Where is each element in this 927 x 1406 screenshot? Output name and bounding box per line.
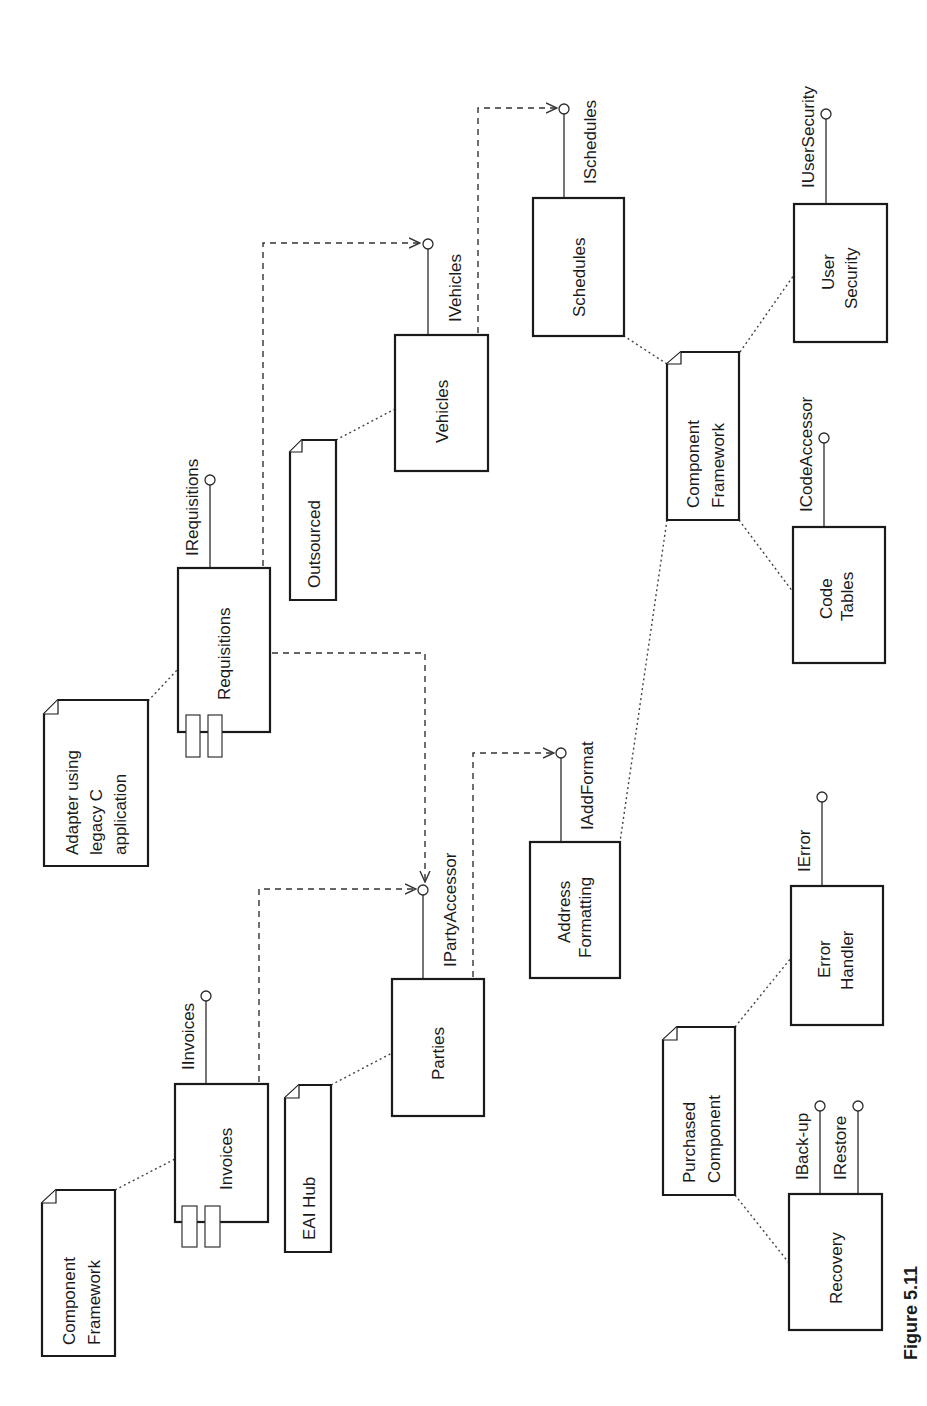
interface-irequisitions: IRequisitions: [183, 459, 215, 568]
figure-caption: Figure 5.11: [901, 1266, 921, 1360]
note-label: Framework: [85, 1259, 104, 1345]
component-code-tables[interactable]: Code Tables: [793, 527, 885, 663]
interface-iinvoices: IInvoices: [179, 991, 211, 1084]
anchor-purchased-recovery: [735, 1195, 789, 1263]
note-label: Component: [60, 1257, 79, 1345]
note-label: application: [111, 774, 130, 855]
interface-iaddformat: IAddFormat: [556, 741, 597, 842]
component-error-handler[interactable]: Error Handler: [791, 886, 883, 1025]
note-outsourced[interactable]: Outsourced: [290, 440, 336, 600]
component-label: Requisitions: [215, 607, 234, 700]
component-tab-icon: [182, 1206, 197, 1247]
anchor-cfright-codetables: [739, 520, 793, 592]
component-label: Formatting: [576, 877, 595, 958]
interface-icodeaccessor: ICodeAccessor: [797, 396, 829, 527]
interface-label: IError: [795, 829, 814, 872]
anchor-eai-parties: [331, 1053, 392, 1085]
note-component-framework-left[interactable]: Component Framework: [42, 1190, 115, 1356]
note-label: EAI Hub: [300, 1177, 319, 1240]
interface-label: ICodeAccessor: [797, 396, 816, 512]
dependency-requisitions-to-ipartyaccessor: [272, 653, 425, 882]
anchor-outsourced-vehicles: [336, 409, 395, 440]
component-address-formatting[interactable]: Address Formatting: [530, 842, 620, 978]
interface-label: ISchedules: [581, 100, 600, 184]
interface-label: IRestore: [831, 1116, 850, 1180]
interface-iusersecurity: IUserSecurity: [799, 85, 831, 204]
anchor-cfright-addressformatting: [620, 520, 667, 842]
interface-ivehicles: IVehicles: [423, 239, 465, 335]
component-label: Handler: [838, 930, 857, 990]
note-label: legacy C: [87, 789, 106, 855]
note-label: Purchased: [680, 1102, 699, 1183]
component-label: User: [819, 254, 838, 290]
note-label: Component: [705, 1095, 724, 1183]
component-schedules[interactable]: Schedules: [533, 198, 624, 336]
note-component-framework-right[interactable]: Component Framework: [667, 352, 739, 520]
interface-irestore: IRestore: [831, 1101, 863, 1195]
component-label: Tables: [838, 572, 857, 621]
interface-ipartyaccessor: IPartyAccessor: [418, 852, 460, 979]
anchor-adapter-requisitions: [148, 669, 178, 701]
component-label: Code: [817, 578, 836, 619]
component-label: Error: [815, 940, 834, 978]
interface-label: IInvoices: [179, 1003, 198, 1070]
interface-ierror: IError: [795, 792, 827, 886]
component-invoices[interactable]: Invoices: [175, 1084, 268, 1247]
note-adapter[interactable]: Adapter using legacy C application: [44, 700, 148, 866]
note-eai-hub[interactable]: EAI Hub: [285, 1085, 331, 1252]
note-label: Framework: [709, 422, 728, 508]
component-label: Recovery: [827, 1232, 846, 1304]
interface-label: IAddFormat: [578, 741, 597, 830]
note-fold-icon: [290, 440, 302, 452]
interface-label: IRequisitions: [183, 459, 202, 556]
interface-label: IVehicles: [446, 254, 465, 322]
note-label: Component: [684, 420, 703, 508]
component-parties[interactable]: Parties: [392, 979, 484, 1116]
component-label: Vehicles: [433, 380, 452, 443]
note-label: Adapter using: [63, 750, 82, 855]
component-requisitions[interactable]: Requisitions: [178, 568, 270, 757]
anchor-purchased-errorhandler: [735, 958, 791, 1027]
component-vehicles[interactable]: Vehicles: [395, 335, 488, 471]
component-user-security[interactable]: User Security: [794, 204, 887, 342]
anchor-cfleft-invoices: [115, 1159, 175, 1190]
component-tab-icon: [205, 1206, 220, 1247]
note-purchased-component[interactable]: Purchased Component: [663, 1027, 735, 1195]
interface-ibackup: IBack-up: [793, 1101, 825, 1195]
component-label: Address: [555, 881, 574, 943]
interface-label: IBack-up: [793, 1113, 812, 1180]
note-label: Outsourced: [305, 500, 324, 588]
component-recovery[interactable]: Recovery: [789, 1194, 882, 1330]
component-tab-icon: [208, 715, 222, 757]
component-label: Invoices: [217, 1128, 236, 1190]
anchor-cfright-schedules: [624, 336, 667, 364]
interface-ischedules: ISchedules: [559, 100, 600, 198]
component-label: Schedules: [570, 238, 589, 317]
anchor-cfright-usersecurity: [740, 275, 794, 352]
interface-label: IUserSecurity: [799, 85, 818, 188]
interface-label: IPartyAccessor: [441, 852, 460, 967]
component-tab-icon: [186, 715, 200, 757]
component-diagram: IRequisitions IInvoices IVehicles IParty…: [0, 0, 927, 1406]
component-label: Parties: [429, 1027, 448, 1080]
component-label: Security: [842, 247, 861, 309]
